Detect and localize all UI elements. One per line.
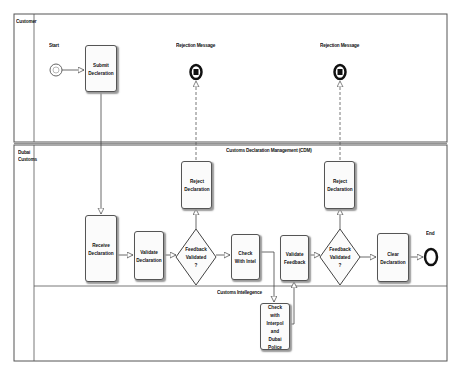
task-text: Submit	[88, 61, 113, 69]
sublane-label-cdm: Customs Declaration Management (CDM)	[226, 147, 312, 153]
task-text: Interpol and	[263, 319, 287, 335]
task-text: Declaration	[136, 256, 161, 264]
start-event-icon[interactable]	[50, 64, 62, 76]
task-clear-declaration[interactable]: ClearDeclaration	[377, 233, 409, 282]
task-text: Declaration	[88, 249, 113, 257]
end-event-label: End	[426, 230, 434, 236]
end-event-icon[interactable]	[425, 249, 437, 265]
diagram-canvas	[0, 0, 460, 373]
task-text: Decleration	[88, 69, 113, 77]
rejection-message-1-icon[interactable]	[191, 65, 202, 79]
task-validate-feedback[interactable]: ValidateFeedback	[280, 235, 309, 281]
task-submit-declaration[interactable]: SubmitDecleration	[85, 45, 117, 92]
task-text: Clear	[380, 250, 405, 258]
task-text: Dubai Police	[263, 335, 287, 351]
task-reject-declaration-2[interactable]: RejectDeclaration	[324, 161, 355, 209]
rejection-message-2-icon[interactable]	[335, 65, 346, 79]
gateway-2-label: Feedback Validated ?	[320, 245, 360, 269]
task-text: Declaration	[184, 185, 209, 193]
task-text: Check	[235, 249, 256, 257]
task-text: Reject	[327, 177, 352, 185]
gateway-text: Feedback	[179, 245, 213, 253]
gateway-text: Feedback	[323, 245, 357, 253]
task-text: Validate	[284, 250, 306, 258]
pool-customer	[14, 14, 447, 142]
sublane-label-intelligence: Customs Intellegence	[217, 289, 262, 295]
gateway-1-label: Feedback Validated ?	[176, 245, 216, 269]
task-check-with-intel[interactable]: CheckWith Intel	[231, 234, 260, 280]
task-check-interpol-dubai-police[interactable]: Check withInterpol andDubai Police	[260, 303, 290, 350]
task-text: Reject	[184, 177, 209, 185]
pool-label-line: Dubai	[18, 149, 37, 156]
task-text: Declaration	[380, 258, 405, 266]
gateway-text: ?	[323, 261, 357, 269]
task-text: With Intel	[235, 257, 256, 265]
rejection-message-1-label: Rejection Message	[176, 42, 215, 48]
flow-interpol-validatefeedback	[290, 282, 294, 324]
task-text: Declaration	[327, 185, 352, 193]
rejection-message-2-label: Rejection Message	[320, 42, 359, 48]
start-event-label: Start	[49, 42, 59, 48]
task-text: Validate	[136, 248, 161, 256]
gateway-text: Validated	[323, 253, 357, 261]
pool-label-dubai-customs: Dubai Customs	[18, 149, 37, 163]
task-text: Receive	[88, 241, 113, 249]
gateway-text: ?	[179, 261, 213, 269]
gateway-text: Validated	[179, 253, 213, 261]
task-reject-declaration-1[interactable]: RejectDeclaration	[181, 161, 212, 209]
pool-label-customer: Customer	[16, 18, 36, 24]
pool-label-line: Customs	[18, 156, 37, 163]
task-validate-declaration[interactable]: ValidateDeclaration	[134, 231, 164, 280]
flow-checkintel-interpol	[260, 252, 274, 302]
task-text: Check with	[263, 303, 287, 319]
task-receive-declaration[interactable]: ReceiveDeclaration	[85, 215, 117, 282]
task-text: Feedback	[284, 258, 306, 266]
